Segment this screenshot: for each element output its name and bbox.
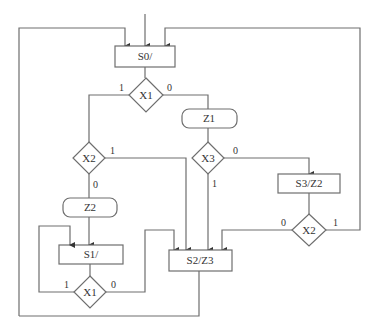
output-z2: Z2 xyxy=(63,198,117,217)
svg-text:Z2: Z2 xyxy=(84,201,96,213)
svg-text:X1: X1 xyxy=(139,89,152,101)
decision-x2-left: X2 1 0 xyxy=(73,142,115,190)
state-s3: S3/Z2 xyxy=(278,174,340,193)
x1-zero-branch xyxy=(163,95,208,109)
svg-text:0: 0 xyxy=(93,179,98,190)
svg-text:X2: X2 xyxy=(302,224,315,236)
svg-text:X2: X2 xyxy=(82,152,95,164)
output-z1: Z1 xyxy=(182,109,237,128)
svg-text:0: 0 xyxy=(281,217,286,228)
svg-text:1: 1 xyxy=(333,217,338,228)
svg-text:S2/Z3: S2/Z3 xyxy=(187,254,214,266)
svg-text:X1: X1 xyxy=(83,286,96,298)
svg-text:1: 1 xyxy=(110,145,115,156)
loop-x2-to-s0 xyxy=(165,28,360,230)
decision-x3: X3 0 1 xyxy=(192,142,238,189)
state-s1: S1/ xyxy=(59,245,123,264)
svg-text:X3: X3 xyxy=(201,152,215,164)
svg-text:S1/: S1/ xyxy=(84,248,100,260)
svg-text:Z1: Z1 xyxy=(203,112,215,124)
svg-text:0: 0 xyxy=(111,279,116,290)
svg-text:0: 0 xyxy=(167,82,172,93)
x2-right-zero-branch xyxy=(222,230,292,250)
s2-exit xyxy=(19,271,199,316)
x1-one-branch xyxy=(89,95,129,142)
svg-text:1: 1 xyxy=(64,279,69,290)
loop-s2-to-s0 xyxy=(19,28,125,316)
state-s2: S2/Z3 xyxy=(169,250,232,271)
svg-text:1: 1 xyxy=(119,82,124,93)
asm-chart: S0/ X1 1 0 Z1 X3 0 1 S3/Z2 X2 0 1 X2 xyxy=(0,0,381,333)
svg-text:S3/Z2: S3/Z2 xyxy=(296,177,323,189)
x3-zero-branch xyxy=(224,158,309,174)
state-s0: S0/ xyxy=(115,46,175,67)
svg-text:1: 1 xyxy=(212,178,217,189)
svg-text:0: 0 xyxy=(233,145,238,156)
svg-text:S0/: S0/ xyxy=(138,50,154,62)
